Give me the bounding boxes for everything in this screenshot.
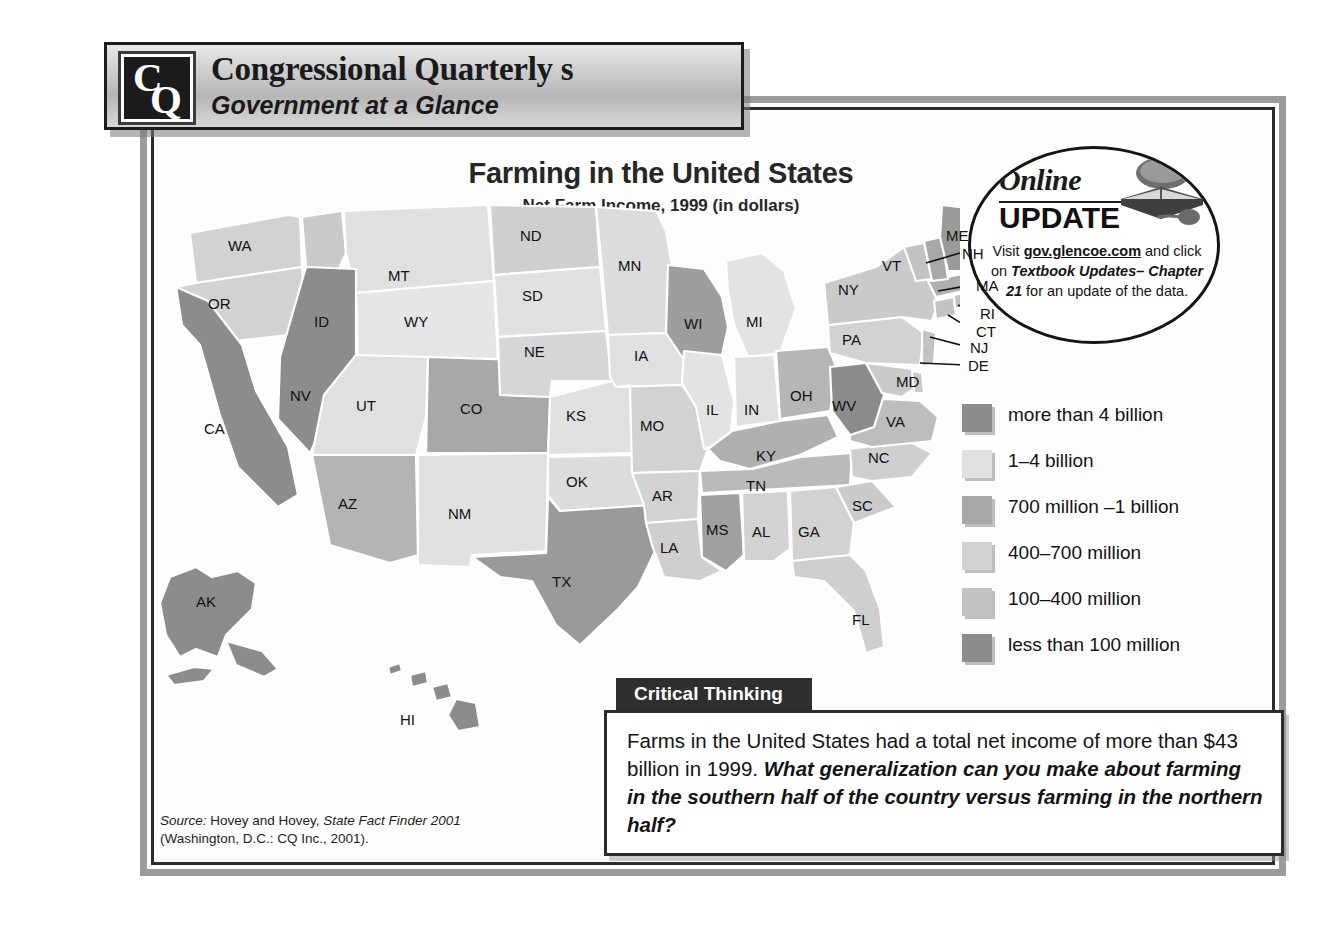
state-SD[interactable]: [494, 267, 606, 337]
online-update-callout[interactable]: Online UPDATE Visit gov.glencoe.com and …: [968, 146, 1220, 344]
state-label-NV: NV: [290, 387, 311, 404]
state-label-AL: AL: [752, 523, 770, 540]
us-choropleth-map: WA OR ID MT WY CA NV UT CO AZ NM ND SD N…: [160, 205, 960, 745]
legend-item[interactable]: 1–4 billion: [958, 444, 1258, 490]
state-HI-1[interactable]: [388, 663, 402, 675]
page-title: Farming in the United States: [396, 157, 926, 190]
state-WI[interactable]: [666, 265, 728, 357]
state-label-ME: ME: [946, 227, 969, 244]
legend-item[interactable]: 100–400 million: [958, 582, 1258, 628]
online-update-word-online: Online: [999, 163, 1081, 197]
state-label-AK: AK: [196, 593, 216, 610]
state-label-ID: ID: [314, 313, 329, 330]
state-label-TN: TN: [746, 477, 766, 494]
bubble-line1-post: and: [1141, 243, 1169, 259]
state-label-MN: MN: [618, 257, 641, 274]
state-MT[interactable]: [344, 205, 494, 293]
state-label-NM: NM: [448, 505, 471, 522]
state-label-WA: WA: [228, 237, 252, 254]
state-label-OH: OH: [790, 387, 813, 404]
state-AK-tail[interactable]: [226, 641, 278, 677]
critical-thinking-text: Farms in the United States had a total n…: [607, 713, 1281, 839]
legend-swatch: [962, 634, 992, 662]
state-label-IL: IL: [706, 401, 719, 418]
logo-letter-q: Q: [150, 75, 182, 123]
state-AK-chain[interactable]: [166, 667, 214, 685]
map-legend: more than 4 billion 1–4 billion 700 mill…: [958, 398, 1258, 674]
legend-label: 400–700 million: [1008, 542, 1141, 564]
state-label-VT: VT: [882, 257, 901, 274]
source-title: State Fact Finder 2001: [323, 813, 460, 828]
state-label-WV: WV: [832, 397, 856, 414]
legend-swatch: [962, 542, 992, 570]
state-HI-4[interactable]: [448, 699, 480, 731]
source-line1: Hovey and Hovey,: [207, 813, 324, 828]
state-FL[interactable]: [792, 555, 884, 653]
legend-swatch: [962, 588, 992, 616]
state-label-ND: ND: [520, 227, 542, 244]
state-label-NJ: NJ: [970, 339, 988, 356]
state-label-KS: KS: [566, 407, 586, 424]
state-label-CO: CO: [460, 400, 483, 417]
book-and-mouse-icon: [1111, 155, 1211, 233]
legend-item[interactable]: less than 100 million: [958, 628, 1258, 674]
banner-title: Congressional Quarterly s: [211, 51, 573, 88]
cq-logo: C Q: [121, 54, 193, 122]
legend-item[interactable]: 400–700 million: [958, 536, 1258, 582]
state-label-GA: GA: [798, 523, 820, 540]
state-label-NY: NY: [838, 281, 859, 298]
state-label-MD: MD: [896, 373, 919, 390]
state-label-MT: MT: [388, 267, 410, 284]
state-label-OR: OR: [208, 295, 231, 312]
source-citation: Source: Hovey and Hovey, State Fact Find…: [160, 812, 590, 848]
state-HI-3[interactable]: [432, 683, 452, 701]
state-label-AR: AR: [652, 487, 673, 504]
legend-item[interactable]: 700 million –1 billion: [958, 490, 1258, 536]
bubble-line3-post: for an update: [1022, 283, 1112, 299]
state-label-MS: MS: [706, 521, 729, 538]
bubble-line1-pre: Visit: [992, 243, 1023, 259]
state-label-RI: RI: [980, 305, 995, 322]
critical-thinking-tab: Critical Thinking: [616, 678, 812, 710]
state-label-HI: HI: [400, 711, 415, 728]
legend-label: 1–4 billion: [1008, 450, 1094, 472]
glencoe-link[interactable]: gov.glencoe.com: [1024, 243, 1141, 259]
state-label-NE: NE: [524, 343, 545, 360]
state-ND[interactable]: [490, 205, 600, 275]
state-label-DE: DE: [968, 357, 989, 374]
state-label-IN: IN: [744, 401, 759, 418]
state-AZ[interactable]: [312, 455, 418, 563]
state-label-SD: SD: [522, 287, 543, 304]
legend-item[interactable]: more than 4 billion: [958, 398, 1258, 444]
state-label-NC: NC: [868, 449, 890, 466]
state-label-IA: IA: [634, 347, 648, 364]
online-update-word-update: UPDATE: [999, 201, 1120, 235]
state-MI[interactable]: [726, 253, 796, 357]
state-label-WI: WI: [684, 315, 702, 332]
state-label-NH: NH: [962, 245, 984, 262]
state-label-TX: TX: [552, 573, 571, 590]
state-label-UT: UT: [356, 397, 376, 414]
state-label-MO: MO: [640, 417, 664, 434]
state-OH[interactable]: [776, 347, 838, 419]
state-AK[interactable]: [160, 567, 256, 657]
state-NM[interactable]: [418, 453, 548, 567]
legend-swatch: [962, 450, 992, 478]
source-line2: (Washington, D.C.: CQ Inc., 2001).: [160, 831, 369, 846]
state-RI[interactable]: [954, 293, 960, 309]
state-KS[interactable]: [548, 381, 632, 455]
state-NC[interactable]: [850, 441, 932, 481]
legend-swatch: [962, 496, 992, 524]
state-NJ[interactable]: [922, 329, 936, 367]
legend-label: 700 million –1 billion: [1008, 496, 1179, 518]
online-update-text: Visit gov.glencoe.com and click on Textb…: [983, 241, 1211, 301]
legend-label: more than 4 billion: [1008, 404, 1163, 426]
banner-subtitle: Government at a Glance: [211, 91, 499, 120]
legend-label: 100–400 million: [1008, 588, 1141, 610]
state-label-OK: OK: [566, 473, 588, 490]
state-label-WY: WY: [404, 313, 428, 330]
state-label-MA: MA: [976, 277, 999, 294]
source-label: Source:: [160, 813, 207, 828]
state-CT[interactable]: [934, 297, 956, 319]
state-HI-2[interactable]: [410, 671, 428, 687]
